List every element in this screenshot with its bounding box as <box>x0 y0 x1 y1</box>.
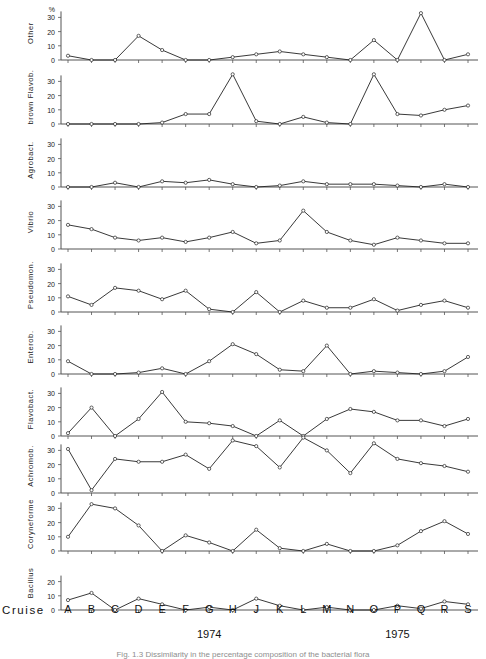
data-point <box>208 178 211 181</box>
data-point <box>137 289 140 292</box>
data-point <box>66 360 69 363</box>
data-point <box>325 306 328 309</box>
y-tick-label: 20 <box>47 579 55 586</box>
x-tick-label-p: P <box>389 603 405 615</box>
figure-caption: Fig. 1.3 Dissimilarity in the percentage… <box>0 650 486 659</box>
data-point <box>161 390 164 393</box>
y-tick-label: 10 <box>47 476 55 483</box>
data-point <box>396 419 399 422</box>
y-tick-label: 10 <box>47 593 55 600</box>
data-point <box>443 424 446 427</box>
data-point <box>137 371 140 374</box>
data-point <box>278 310 281 313</box>
data-line <box>68 392 468 436</box>
data-point <box>278 547 281 550</box>
y-tick-label: 0 <box>51 184 55 191</box>
data-point <box>208 422 211 425</box>
data-point <box>443 299 446 302</box>
y-tick-label: 10 <box>47 43 55 50</box>
data-point <box>302 370 305 373</box>
data-point <box>90 372 93 375</box>
data-point <box>325 344 328 347</box>
panel-label-text: Enterob. <box>26 330 35 363</box>
data-point <box>443 108 446 111</box>
data-point <box>208 236 211 239</box>
data-point <box>184 58 187 61</box>
data-point <box>396 371 399 374</box>
panel-flavobact: Flavobact.0102030 <box>0 378 486 440</box>
data-point <box>325 183 328 186</box>
data-point <box>349 407 352 410</box>
plot-area: 0102030% <box>60 2 486 64</box>
x-tick-label-m: M <box>319 603 335 615</box>
data-point <box>349 306 352 309</box>
data-point <box>161 367 164 370</box>
data-line <box>68 13 468 60</box>
data-point <box>349 472 352 475</box>
data-point <box>396 309 399 312</box>
data-point <box>349 183 352 186</box>
data-point <box>90 489 93 492</box>
data-point <box>396 457 399 460</box>
data-point <box>113 286 116 289</box>
data-line <box>68 74 468 124</box>
data-point <box>113 372 116 375</box>
y-tick-label: 20 <box>47 93 55 100</box>
data-point <box>349 239 352 242</box>
data-point <box>255 120 258 123</box>
data-point <box>184 420 187 423</box>
y-tick-label: 30 <box>47 78 55 85</box>
data-point <box>231 183 234 186</box>
plot-area: 0102030 <box>60 316 486 378</box>
data-point <box>113 236 116 239</box>
data-point <box>208 467 211 470</box>
x-tick-label-f: F <box>178 603 194 615</box>
data-point <box>372 73 375 76</box>
panel-label-text: brown Flavob. <box>26 70 35 125</box>
data-point <box>90 303 93 306</box>
y-tick-label: 10 <box>47 232 55 239</box>
data-point <box>161 121 164 124</box>
data-point <box>466 306 469 309</box>
year-labels: 19741975 <box>0 628 486 646</box>
data-point <box>113 507 116 510</box>
plot-area: 0102030 <box>60 493 486 555</box>
data-point <box>466 417 469 420</box>
data-point <box>325 417 328 420</box>
panel-agrobact: Agrobact.0102030 <box>0 129 486 191</box>
year-label-1975: 1975 <box>377 628 417 640</box>
data-point <box>419 419 422 422</box>
data-point <box>255 185 258 188</box>
y-tick-label: 10 <box>47 534 55 541</box>
data-point <box>419 12 422 15</box>
y-tick-label: 20 <box>47 462 55 469</box>
data-point <box>372 442 375 445</box>
data-point <box>208 541 211 544</box>
y-tick-label: 10 <box>47 295 55 302</box>
plot-area: 0102030 <box>60 435 486 497</box>
data-point <box>90 185 93 188</box>
data-point <box>90 503 93 506</box>
data-point <box>137 34 140 37</box>
data-point <box>255 242 258 245</box>
data-point <box>184 534 187 537</box>
data-point <box>443 370 446 373</box>
data-point <box>419 530 422 533</box>
data-point <box>255 353 258 356</box>
plot-area: 0102030 <box>60 129 486 191</box>
x-tick-label-b: B <box>84 603 100 615</box>
data-point <box>278 239 281 242</box>
data-point <box>161 460 164 463</box>
data-point <box>466 104 469 107</box>
y-tick-label: 10 <box>47 419 55 426</box>
data-point <box>90 122 93 125</box>
x-tick-label-o: O <box>366 603 382 615</box>
data-point <box>278 50 281 53</box>
data-point <box>278 184 281 187</box>
data-point <box>90 58 93 61</box>
data-point <box>231 310 234 313</box>
data-point <box>302 180 305 183</box>
data-line <box>68 438 468 491</box>
plot-area: 0102030 <box>60 66 486 128</box>
data-point <box>302 53 305 56</box>
